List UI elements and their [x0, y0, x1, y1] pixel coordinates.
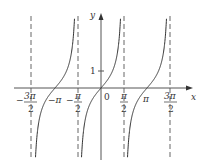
three-pi-2-num: 3π [164, 91, 177, 101]
neg-3pi-2-num: 3π [24, 91, 37, 101]
y-tick-label-1: 1 [90, 66, 96, 76]
pi-2-num: π [120, 91, 128, 101]
origin-label: 0 [104, 92, 110, 102]
neg-pi-2-den: 2 [75, 104, 81, 114]
y-axis-label: y [89, 10, 96, 20]
neg-pi-label: −π [48, 95, 63, 105]
x-axis-label: x [191, 92, 196, 102]
neg-pi-2-num: π [74, 91, 82, 101]
tangent-graph: y x 1 0 − 3π 2 −π − π 2 π 2 π 3π 2 [0, 0, 205, 165]
x-axis-arrow-icon [186, 86, 193, 91]
pi-2-den: 2 [121, 104, 127, 114]
neg-3pi-2-den: 2 [28, 104, 34, 114]
three-pi-2-den: 2 [168, 104, 174, 114]
y-axis-arrow-icon [99, 13, 104, 20]
neg-3pi-2-minus: − [16, 95, 24, 105]
neg-pi-2-minus: − [66, 95, 74, 105]
pi-label: π [142, 94, 150, 104]
